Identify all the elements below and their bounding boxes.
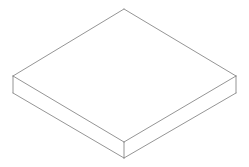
isometric-slab-drawing xyxy=(0,0,249,167)
top-face xyxy=(13,9,236,142)
slab xyxy=(13,9,236,158)
